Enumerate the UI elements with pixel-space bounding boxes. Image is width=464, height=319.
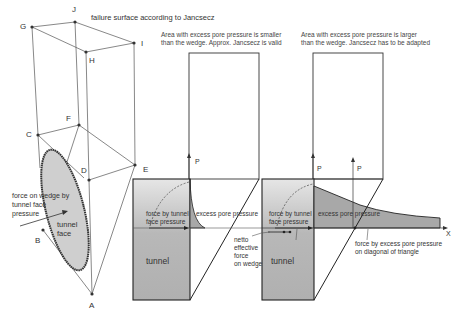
left-caption-2: than the wedge. Approx. Jancsecz is vali…: [161, 39, 282, 47]
diagram-canvas: [0, 0, 464, 319]
diag-force-label-2: on diagonal of triangle: [355, 248, 419, 256]
right-caption-2: than the wedge. Jancsecz has to be adapt…: [301, 39, 430, 47]
diag-force-label-1: force by excess pore pressure: [355, 240, 442, 248]
right-force-tunnel-2: face pressure: [269, 218, 308, 226]
point-label-e: E: [143, 165, 148, 174]
force-on-wedge-label: force on wedge by tunnel face pressure: [12, 191, 72, 218]
point-label-f: F: [66, 114, 71, 123]
point-label-g: G: [20, 22, 26, 31]
left-force-tunnel-2: face pressure: [146, 218, 185, 226]
right-p-label-2: P: [357, 165, 362, 172]
point-label-d: D: [81, 166, 87, 175]
right-caption-1: Area with excess pore pressure is larger: [301, 31, 417, 39]
left-force-tunnel-1: force by tunnel: [146, 210, 189, 218]
netto-label-1: netto: [234, 236, 248, 244]
right-force-tunnel-1: force by tunnel: [269, 210, 312, 218]
tunnel-face-label: tunnel face: [57, 220, 81, 238]
point-label-b: B: [35, 236, 40, 245]
point-label-j: J: [72, 5, 76, 14]
netto-label-4: on wedge: [234, 260, 262, 268]
left-p-label: P: [195, 158, 200, 165]
right-p-label-1: P: [317, 165, 322, 172]
point-label-h: H: [89, 56, 95, 65]
left-tunnel-label: tunnel: [146, 256, 169, 266]
netto-label-2: effective: [234, 244, 258, 252]
left-excess-label: excess pore pressure: [196, 210, 258, 218]
right-tunnel-label: tunnel: [271, 256, 294, 266]
netto-label-3: force: [234, 252, 248, 260]
right-excess-label: excess pore pressure: [318, 210, 380, 218]
point-label-i: I: [141, 39, 143, 48]
point-label-a: A: [89, 301, 94, 310]
point-label-c: C: [26, 130, 32, 139]
x-axis-label: X: [446, 230, 451, 237]
diagram-title: failure surface according to Jancsecz: [91, 13, 214, 22]
left-caption-1: Area with excess pore pressure is smalle…: [161, 31, 281, 39]
